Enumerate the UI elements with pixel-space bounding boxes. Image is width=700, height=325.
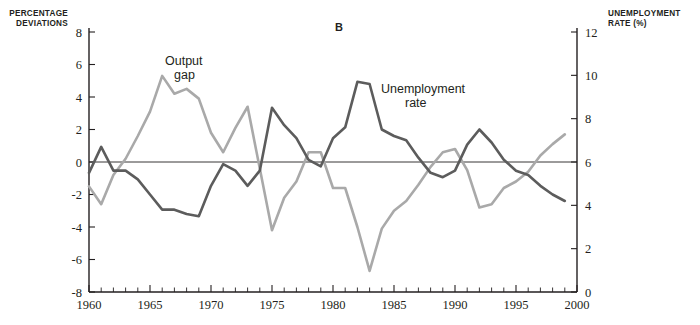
x-axis-tick-label: 1995 [504,298,529,312]
left-axis-tick-label: 4 [76,91,83,105]
x-axis-tick-label: 1960 [77,298,102,312]
right-axis-tick-label: 6 [585,156,591,170]
left-axis-title-line1: PERCENTAGE [9,9,68,18]
right-axis-title-line1: UNEMPLOYMENT [608,9,681,18]
series-line-unemployment-rate [89,82,565,216]
left-axis-title-line2: DEVIATIONS [16,19,68,28]
output-gap-unemployment-chart: 86420-2-4-6-8121086420196019651970197519… [0,0,700,325]
left-axis-tick-label: -4 [72,221,83,235]
panel-letter: B [335,21,343,33]
unemployment-label-line1: Unemployment [381,82,466,96]
left-axis-tick-label: -2 [72,188,82,202]
right-axis-tick-label: 8 [585,112,591,126]
left-axis-tick-label: -6 [72,253,82,267]
left-axis-tick-label: 2 [76,123,82,137]
right-axis-tick-label: 10 [585,69,598,83]
x-axis-tick-label: 1990 [443,298,468,312]
output-gap-label-line1: Output [165,54,203,68]
x-axis-tick-label: 1975 [260,298,285,312]
output-gap-label-line2: gap [174,68,195,82]
series-line-output-gap [89,76,565,271]
unemployment-label-line2: rate [405,96,427,110]
right-axis-tick-label: 2 [585,242,591,256]
x-axis-tick-label: 2000 [565,298,590,312]
left-axis-tick-label: 0 [76,156,82,170]
right-axis-tick-label: 12 [585,26,598,40]
chart-panel-b: 86420-2-4-6-8121086420196019651970197519… [0,0,700,325]
left-axis-tick-label: 6 [76,58,82,72]
right-axis-tick-label: 4 [585,199,592,213]
right-axis-title-line2: RATE (%) [608,19,647,28]
x-axis-tick-label: 1970 [199,298,224,312]
x-axis-tick-label: 1965 [138,298,163,312]
left-axis-tick-label: 8 [76,26,82,40]
x-axis-tick-label: 1980 [321,298,346,312]
x-axis-tick-label: 1985 [382,298,407,312]
